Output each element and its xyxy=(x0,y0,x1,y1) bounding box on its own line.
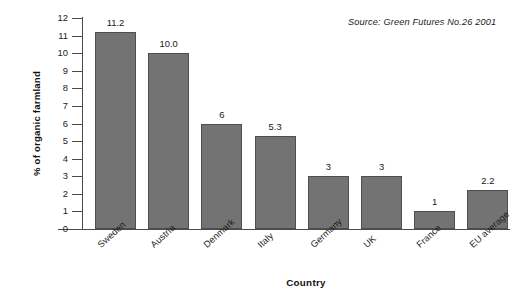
bar xyxy=(148,53,189,229)
y-axis-tick-label-text: 0 xyxy=(42,224,68,233)
y-axis-tick-label: 8 xyxy=(38,83,68,93)
bar-value-label: 10.0 xyxy=(136,39,201,48)
bar xyxy=(255,136,296,229)
y-axis-tick-label-text: 2 xyxy=(42,189,68,198)
bar-value-label: 6 xyxy=(189,110,254,119)
y-axis-tick-label: 6 xyxy=(38,119,68,129)
bar xyxy=(95,32,136,229)
y-axis-tick xyxy=(72,18,83,19)
x-axis-title-text: Country xyxy=(286,277,326,288)
y-axis-tick-label: 12 xyxy=(38,13,68,23)
y-axis-tick-label-text: 9 xyxy=(42,66,68,75)
y-axis-tick xyxy=(72,36,83,37)
y-axis-tick xyxy=(72,71,83,72)
y-axis-tick-label-text: 12 xyxy=(42,13,68,22)
y-axis-tick-label: 3 xyxy=(38,171,68,181)
bar-chart: Source: Green Futures No.26 2001 % of or… xyxy=(0,0,528,299)
bar-value-label: 11.2 xyxy=(83,18,148,27)
y-axis-tick xyxy=(72,88,83,89)
x-axis-category-label: Italy xyxy=(255,231,275,250)
y-axis-tick xyxy=(72,53,83,54)
bar-value-label: 3 xyxy=(349,162,414,171)
y-axis-tick-label: 0 xyxy=(38,224,68,234)
y-axis-tick-label-text: 4 xyxy=(42,154,68,163)
y-axis-tick-label-text: 1 xyxy=(42,206,68,215)
source-annotation: Source: Green Futures No.26 2001 xyxy=(348,17,496,27)
bar xyxy=(308,176,349,229)
bar-value-label: 1 xyxy=(402,197,467,206)
y-axis-tick-label: 1 xyxy=(38,206,68,216)
y-axis-tick-label-text: 11 xyxy=(42,31,68,40)
y-axis-tick-label: 10 xyxy=(38,48,68,58)
y-axis-tick-label-text: 6 xyxy=(42,119,68,128)
y-axis-tick-label: 2 xyxy=(38,189,68,199)
y-axis-tick xyxy=(72,141,83,142)
y-axis-tick xyxy=(72,106,83,107)
y-axis-tick-label-text: 7 xyxy=(42,101,68,110)
y-axis-tick xyxy=(72,176,83,177)
x-axis-category-label: UK xyxy=(362,234,378,250)
y-axis-tick-label: 7 xyxy=(38,101,68,111)
y-axis-tick xyxy=(72,159,83,160)
y-axis-tick xyxy=(72,124,83,125)
y-axis-tick-label: 4 xyxy=(38,154,68,164)
x-axis-title: Country xyxy=(0,277,528,288)
y-axis-tick-label-text: 8 xyxy=(42,83,68,92)
y-axis-tick-label-text: 10 xyxy=(42,48,68,57)
y-axis-tick-label-text: 3 xyxy=(42,171,68,180)
y-axis-tick-label: 11 xyxy=(38,31,68,41)
bar xyxy=(361,176,402,229)
y-axis-tick-label-text: 5 xyxy=(42,136,68,145)
y-axis-tick xyxy=(72,194,83,195)
y-axis-tick-label: 9 xyxy=(38,66,68,76)
y-axis-tick xyxy=(72,211,83,212)
bar xyxy=(201,124,242,230)
bar-value-label: 2.2 xyxy=(455,176,520,185)
y-axis-tick-label: 5 xyxy=(38,136,68,146)
y-axis-tick xyxy=(72,229,83,230)
bar-value-label: 5.3 xyxy=(243,122,308,131)
